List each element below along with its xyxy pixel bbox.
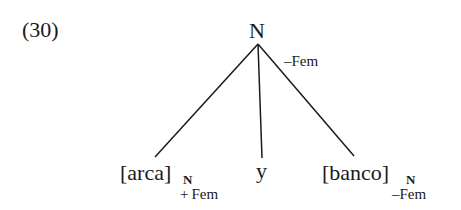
right-child-feature: –Fem: [392, 187, 426, 202]
root-node-label: N: [249, 20, 265, 42]
tree-branches: [0, 0, 461, 210]
branch-center: [258, 44, 262, 158]
right-child-label: [banco]: [322, 162, 389, 184]
root-feature: –Fem: [284, 54, 318, 69]
left-child-feature: + Fem: [180, 187, 218, 202]
left-child-subscript: N: [183, 173, 192, 186]
left-child-label: [arca]: [120, 162, 171, 184]
branch-left: [155, 44, 258, 157]
center-child-label: y: [256, 160, 267, 182]
example-number: (30): [22, 19, 59, 41]
right-child-subscript: N: [406, 173, 415, 186]
